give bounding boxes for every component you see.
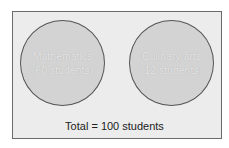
set-name-culinary-arts: Culinary arts <box>142 49 201 63</box>
total-label: Total = 100 students <box>0 120 229 132</box>
set-count-mathematics: (60 students) <box>32 63 93 77</box>
set-circle-culinary-arts: Culinary arts (12 students) <box>129 20 214 106</box>
set-name-mathematics: Mathematics <box>33 49 93 63</box>
set-circle-mathematics: Mathematics (60 students) <box>20 20 105 106</box>
set-count-culinary-arts: (12 students) <box>141 63 202 77</box>
